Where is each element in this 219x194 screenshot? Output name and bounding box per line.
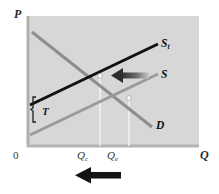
- supply-label: S: [161, 69, 167, 81]
- supply-curve: [30, 74, 158, 135]
- y-axis-label: P: [14, 8, 21, 20]
- tick-qe-sub: e: [115, 155, 118, 163]
- tax-bracket: [31, 97, 36, 122]
- quantity-arrow-icon: [75, 167, 121, 184]
- tick-qc-sub: c: [85, 155, 88, 163]
- chart-canvas: [0, 0, 219, 194]
- supply-demand-tax-figure: P Q 0 Qc Qe St S D T: [0, 0, 219, 194]
- x-axis-label: Q: [200, 149, 209, 161]
- tax-label: T: [42, 106, 49, 117]
- supply-taxed-label-sub: t: [167, 42, 169, 51]
- supply-taxed-label: St: [161, 38, 170, 50]
- tick-qc-main: Q: [77, 149, 85, 161]
- tick-qe-main: Q: [107, 149, 115, 161]
- origin-label: 0: [13, 150, 19, 161]
- demand-label: D: [156, 120, 164, 132]
- demand-curve: [32, 32, 152, 127]
- tick-label-qc: Qc: [77, 150, 88, 161]
- tick-label-qe: Qe: [107, 150, 118, 161]
- taxed-equilibrium-point: [98, 74, 103, 79]
- original-equilibrium-point: [127, 96, 132, 101]
